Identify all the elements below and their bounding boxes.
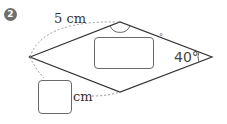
unknown-length-unit-label: cm [73,89,93,104]
dashed-leader-bottom-side [92,92,120,96]
top-angle-arc-icon [110,26,130,32]
unknown-angle-degree-symbol: ° [159,32,163,41]
unknown-angle-answer-box[interactable] [94,37,154,69]
side-length-label: 5 cm [54,11,86,26]
unknown-length-answer-box[interactable] [38,80,72,114]
given-angle-label: 40° [174,49,199,65]
